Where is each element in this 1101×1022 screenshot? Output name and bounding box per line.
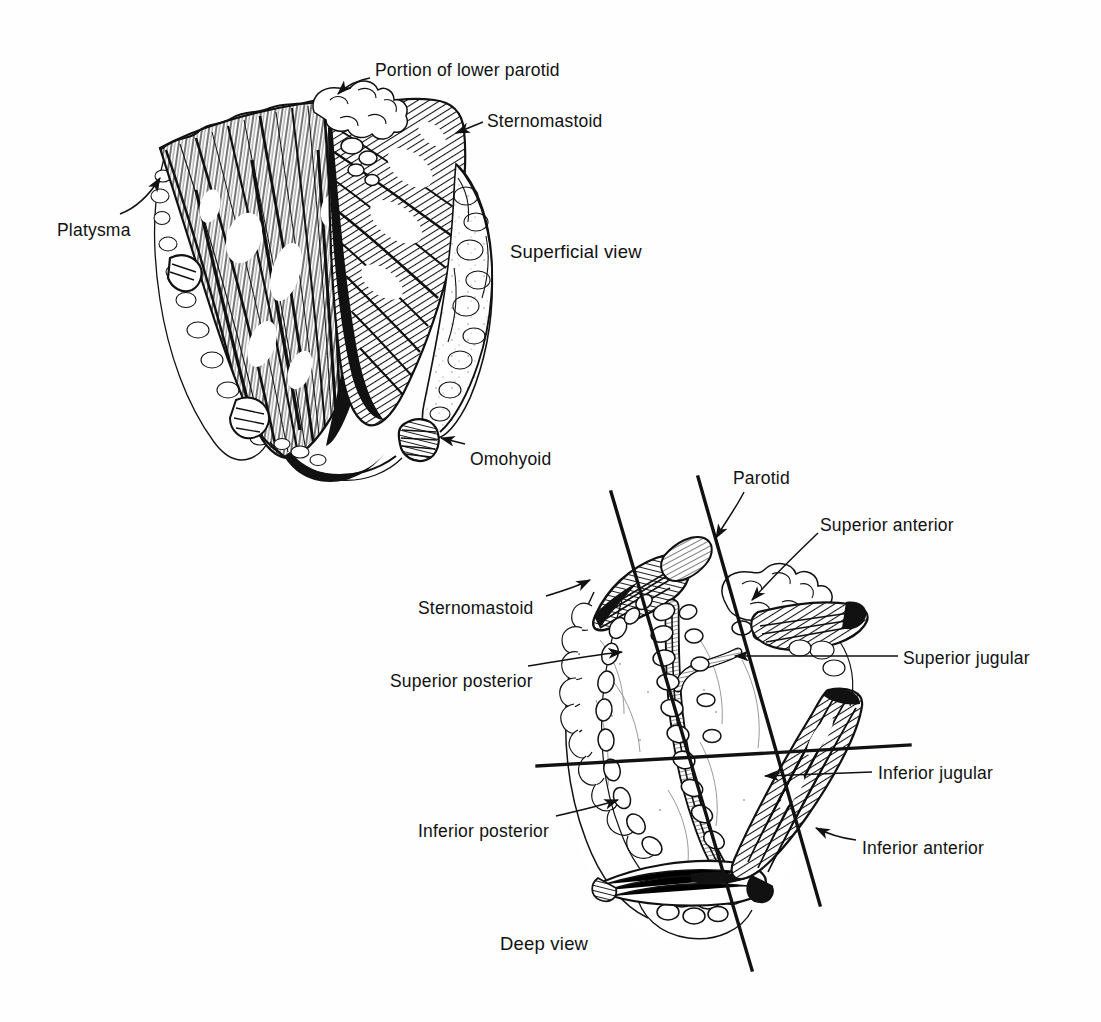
- label-parotid: Parotid: [733, 470, 790, 488]
- label-portion-of-lower-parotid: Portion of lower parotid: [375, 62, 560, 80]
- leader-omohyoid: [441, 438, 465, 444]
- label-sternomastoid-deep: Sternomastoid: [418, 600, 533, 618]
- label-inferior-posterior: Inferior posterior: [418, 823, 549, 841]
- leader-inferior-anterior: [816, 828, 856, 840]
- label-superior-posterior: Superior posterior: [390, 673, 533, 691]
- label-omohyoid: Omohyoid: [470, 451, 551, 469]
- label-superior-anterior: Superior anterior: [820, 517, 954, 535]
- label-inferior-jugular: Inferior jugular: [878, 765, 993, 783]
- label-superior-jugular: Superior jugular: [903, 650, 1030, 668]
- anatomical-plate: Portion of lower parotid Sternomastoid P…: [0, 0, 1101, 1022]
- caption-deep-view: Deep view: [500, 935, 588, 954]
- label-platysma: Platysma: [57, 222, 131, 240]
- leader-parotid: [716, 492, 744, 538]
- leader-sternomastoid-deep: [546, 580, 590, 596]
- illustration-canvas: [0, 0, 1101, 1022]
- label-sternomastoid-superficial: Sternomastoid: [487, 113, 602, 131]
- deep-view-figure: [528, 477, 910, 970]
- superficial-view-figure: [120, 78, 492, 482]
- omohyoid-muscle-superficial: [399, 419, 439, 461]
- caption-superficial-view: Superficial view: [510, 243, 642, 262]
- label-inferior-anterior: Inferior anterior: [862, 840, 984, 858]
- upper-right-reflected-muscle: [751, 602, 867, 650]
